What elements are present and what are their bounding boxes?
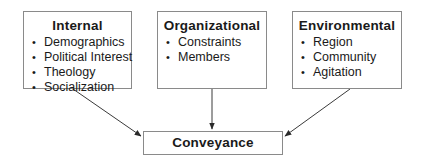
environmental-list: Region Community Agitation bbox=[293, 35, 401, 80]
arrow-internal-to-conveyance bbox=[73, 89, 141, 136]
conveyance-title: Conveyance bbox=[144, 135, 282, 151]
list-item: Community bbox=[301, 50, 401, 65]
internal-title: Internal bbox=[24, 18, 131, 34]
list-item: Region bbox=[301, 35, 401, 50]
organizational-list: Constraints Members bbox=[158, 35, 266, 65]
environmental-title: Environmental bbox=[293, 18, 401, 34]
list-item: Members bbox=[166, 50, 266, 65]
list-item: Socialization bbox=[32, 80, 131, 95]
organizational-title: Organizational bbox=[158, 18, 266, 34]
internal-list: Demographics Political Interest Theology… bbox=[24, 35, 131, 95]
internal-box: Internal Demographics Political Interest… bbox=[23, 11, 132, 89]
organizational-box: Organizational Constraints Members bbox=[157, 11, 267, 89]
environmental-box: Environmental Region Community Agitation bbox=[292, 11, 402, 89]
list-item: Theology bbox=[32, 65, 131, 80]
list-item: Demographics bbox=[32, 35, 131, 50]
conveyance-box: Conveyance bbox=[143, 131, 283, 155]
list-item: Agitation bbox=[301, 65, 401, 80]
arrow-environmental-to-conveyance bbox=[285, 89, 350, 136]
list-item: Political Interest bbox=[32, 50, 131, 65]
list-item: Constraints bbox=[166, 35, 266, 50]
